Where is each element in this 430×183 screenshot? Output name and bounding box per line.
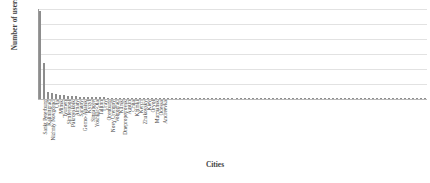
- bar: [256, 98, 258, 99]
- x-axis-tick-label: Andreevka: [161, 48, 169, 100]
- bar: [364, 98, 366, 99]
- bar: [300, 98, 302, 99]
- bar: [408, 98, 410, 99]
- bar: [260, 98, 262, 99]
- bar: [284, 98, 286, 99]
- bar: [416, 98, 418, 99]
- bar: [203, 98, 205, 99]
- bar: [292, 98, 294, 99]
- bar: [424, 98, 426, 99]
- bar: [219, 98, 221, 99]
- bar: [227, 98, 229, 99]
- bar: [412, 98, 414, 99]
- bar: [332, 98, 334, 99]
- bar: [320, 98, 322, 99]
- bar: [288, 98, 290, 99]
- bar: [264, 98, 266, 99]
- bar: [252, 98, 254, 99]
- bar: [352, 98, 354, 99]
- bar: [316, 98, 318, 99]
- bar: [175, 98, 177, 99]
- bar: [336, 98, 338, 99]
- x-axis-title: Cities: [0, 160, 430, 169]
- x-axis-tick-labels: Sankt PeterburgKaliningradNizhniy Novgor…: [38, 100, 427, 156]
- bar: [420, 98, 422, 99]
- bar-chart: Number of users 300250200150100500 Sankt…: [0, 0, 430, 183]
- bar: [312, 98, 314, 99]
- bar: [199, 98, 201, 99]
- bar: [244, 98, 246, 99]
- bar: [392, 98, 394, 99]
- bar: [384, 98, 386, 99]
- bar: [207, 98, 209, 99]
- bar: [340, 98, 342, 99]
- bar: [360, 98, 362, 99]
- bar: [191, 98, 193, 99]
- bar: [368, 98, 370, 99]
- bar: [296, 98, 298, 99]
- bar: [376, 98, 378, 99]
- bar: [248, 98, 250, 99]
- bar: [400, 98, 402, 99]
- bar: [236, 98, 238, 99]
- bar: [211, 98, 213, 99]
- bar: [388, 98, 390, 99]
- bar: [272, 98, 274, 99]
- bar: [404, 98, 406, 99]
- bar: [231, 98, 233, 99]
- bar: [356, 98, 358, 99]
- bar: [195, 98, 197, 99]
- bar: [280, 98, 282, 99]
- bar: [215, 98, 217, 99]
- y-axis-title: Number of users: [11, 0, 23, 63]
- bar: [328, 98, 330, 99]
- bar: [348, 98, 350, 99]
- bar: [276, 98, 278, 99]
- bar: [324, 98, 326, 99]
- bar: [183, 98, 185, 99]
- bar: [268, 98, 270, 99]
- bar: [223, 98, 225, 99]
- bar: [240, 98, 242, 99]
- bar: [171, 98, 173, 99]
- bar: [396, 98, 398, 99]
- bar: [308, 98, 310, 99]
- bar: [179, 98, 181, 99]
- bar: [304, 98, 306, 99]
- bar: [344, 98, 346, 99]
- bar: [187, 98, 189, 99]
- bar: [372, 98, 374, 99]
- x-axis-tick-label-text: Andreevka: [161, 100, 169, 152]
- bar: [380, 98, 382, 99]
